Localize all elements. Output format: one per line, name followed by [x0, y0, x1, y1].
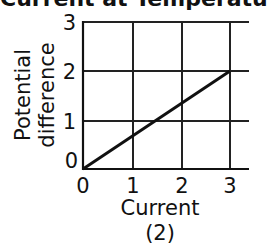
y-tick-0: 0	[65, 149, 78, 173]
x-tick-3: 3	[223, 174, 236, 198]
grid	[83, 22, 249, 169]
y-tick-2: 2	[63, 60, 76, 84]
x-axis-label: Current	[121, 196, 200, 220]
axes	[82, 21, 249, 170]
x-tick-2: 2	[175, 174, 188, 198]
chart-plot: 3 2 1 0 0 1 2 3 Current (2) Potential di…	[0, 0, 267, 248]
caption: (2)	[145, 221, 175, 245]
y-axis-label-line1: Potential	[11, 49, 35, 141]
y-tick-3: 3	[63, 11, 76, 35]
x-tick-1: 1	[126, 174, 139, 198]
x-tick-0: 0	[76, 174, 89, 198]
y-tick-1: 1	[63, 110, 76, 134]
y-axis-label-line2: difference	[35, 42, 59, 147]
